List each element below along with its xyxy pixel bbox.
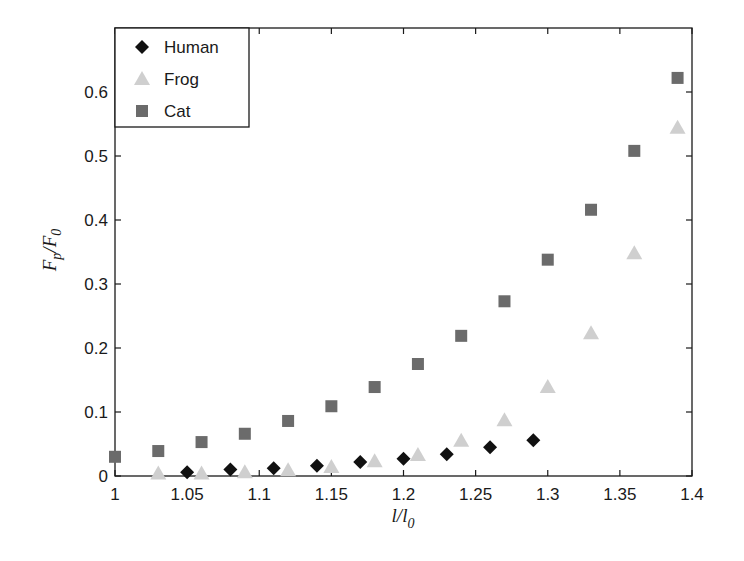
legend-label: Cat [164,102,191,121]
x-tick-label: 1.25 [459,485,492,504]
cat-point [585,204,597,216]
x-tick-label: 1.35 [603,485,636,504]
cat-point [152,445,164,457]
x-tick-label: 1.15 [315,485,348,504]
legend: HumanFrogCat [115,28,249,127]
x-tick-label: 1.05 [171,485,204,504]
cat-point [325,400,337,412]
y-tick-label: 0.5 [84,147,108,166]
scatter-chart: 11.051.11.151.21.251.31.351.400.10.20.30… [0,0,744,561]
x-tick-label: 1 [110,485,119,504]
cat-point [498,295,510,307]
x-tick-label: 1.4 [680,485,704,504]
y-tick-label: 0.3 [84,275,108,294]
cat-point [455,330,467,342]
y-axis-title: Fp/F0 [39,229,64,273]
y-tick-label: 0.4 [84,211,108,230]
legend-label: Human [164,38,219,57]
cat-point [542,254,554,266]
cat-point [369,381,381,393]
legend-label: Frog [164,70,199,89]
cat-point [196,436,208,448]
cat-point [672,72,684,84]
y-tick-label: 0 [99,467,108,486]
x-tick-label: 1.3 [536,485,560,504]
y-tick-label: 0.2 [84,339,108,358]
legend-square-icon [136,105,148,117]
x-axis-title: l/l0 [392,505,415,531]
y-tick-label: 0.6 [84,83,108,102]
cat-point [109,451,121,463]
x-tick-label: 1.2 [392,485,416,504]
x-tick-label: 1.1 [247,485,271,504]
cat-point [239,428,251,440]
cat-point [282,415,294,427]
y-tick-label: 0.1 [84,403,108,422]
cat-point [412,358,424,370]
cat-point [628,145,640,157]
